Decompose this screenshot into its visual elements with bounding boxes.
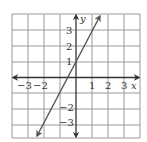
- y-axis-label: y: [79, 13, 86, 24]
- y-tick: −2: [59, 102, 74, 113]
- coordinate-plane: y x −3 −2 1 2 3 3 2 1 −2 −3: [0, 0, 147, 142]
- y-tick: 2: [66, 41, 72, 52]
- x-tick: −3: [17, 80, 32, 91]
- y-tick: −3: [59, 117, 74, 128]
- x-axis-label: x: [131, 80, 137, 91]
- y-tick: 3: [66, 25, 72, 36]
- x-tick: 3: [121, 80, 127, 91]
- x-tick: 1: [89, 80, 95, 91]
- y-tick: 1: [66, 56, 72, 67]
- x-tick: −2: [33, 80, 48, 91]
- x-tick: 2: [105, 80, 111, 91]
